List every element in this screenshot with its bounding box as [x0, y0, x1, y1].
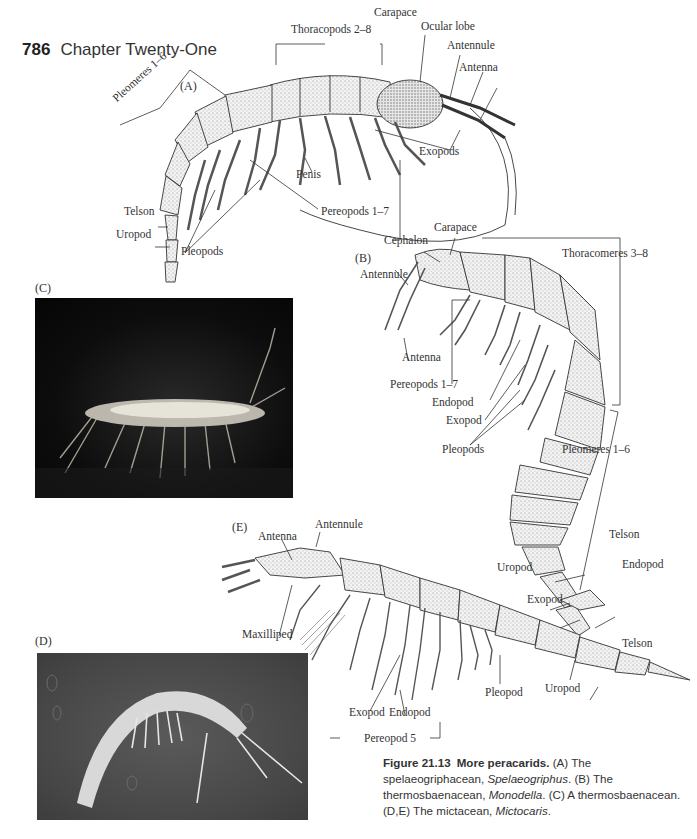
label-b-exopod: Exopod	[446, 414, 482, 426]
label-a-telson: Telson	[124, 205, 155, 217]
caption-genus-1: Spelaeogriphus	[487, 772, 568, 785]
label-b-thoracomeres: Thoracomeres 3–8	[562, 247, 648, 259]
label-b-carapace: Carapace	[434, 221, 477, 233]
label-e-endopod: Endopod	[389, 706, 431, 718]
label-b-uropod: Uropod	[497, 561, 532, 573]
label-b-exopod-tail: Exopod	[527, 593, 563, 605]
panel-a-letter: (A)	[180, 79, 197, 94]
panel-b-letter: (B)	[355, 251, 371, 266]
label-a-uropod: Uropod	[116, 228, 151, 240]
photo-c-thermosbaenacean	[35, 298, 293, 498]
label-a-ocular-lobe: Ocular lobe	[421, 20, 475, 32]
figure-title: More peracarids.	[457, 756, 550, 769]
label-b-pereopods: Pereopods 1–7	[390, 378, 458, 390]
label-b-cephalon: Cephalon	[384, 234, 428, 246]
label-a-antenna: Antenna	[459, 61, 498, 73]
figure-caption: Figure 21.13More peracarids. (A) The spe…	[383, 755, 683, 819]
label-e-telson: Telson	[622, 637, 653, 649]
label-a-carapace: Carapace	[374, 6, 417, 18]
figure-number: Figure 21.13	[383, 756, 451, 769]
label-e-uropod: Uropod	[545, 682, 580, 694]
label-a-antennule: Antennule	[447, 39, 495, 51]
label-e-exopod: Exopod	[349, 706, 385, 718]
label-b-antenna: Antenna	[402, 351, 441, 363]
label-e-antennule: Antennule	[315, 518, 363, 530]
label-b-endopod-tail: Endopod	[622, 558, 664, 570]
label-a-thoracopods: Thoracopods 2–8	[291, 23, 371, 35]
label-e-maxilliped: Maxilliped	[242, 628, 292, 640]
label-e-pleopod: Pleopod	[485, 686, 523, 698]
caption-text-4: .	[548, 804, 551, 817]
photo-d-mictacean-sem	[37, 653, 308, 820]
label-a-pereopods: Pereopods 1–7	[321, 205, 389, 217]
label-a-exopods: Exopods	[419, 145, 459, 157]
label-b-endopod: Endopod	[432, 396, 474, 408]
label-b-pleopods: Pleopods	[442, 443, 484, 455]
label-a-pleopods: Pleopods	[181, 245, 223, 257]
label-b-telson: Telson	[609, 528, 640, 540]
label-b-pleomeres: Pleomeres 1–6	[562, 443, 630, 455]
panel-e-letter: (E)	[232, 520, 247, 535]
label-a-penis: Penis	[296, 168, 321, 180]
caption-genus-2: Monodella	[489, 788, 543, 801]
label-e-pereopod: Pereopod 5	[364, 732, 416, 744]
caption-genus-3: Mictocaris	[496, 804, 548, 817]
label-e-antenna: Antenna	[258, 530, 297, 542]
label-b-antennule: Antennule	[360, 268, 408, 280]
panel-c-letter: (C)	[35, 281, 51, 296]
panel-d-letter: (D)	[35, 634, 52, 649]
